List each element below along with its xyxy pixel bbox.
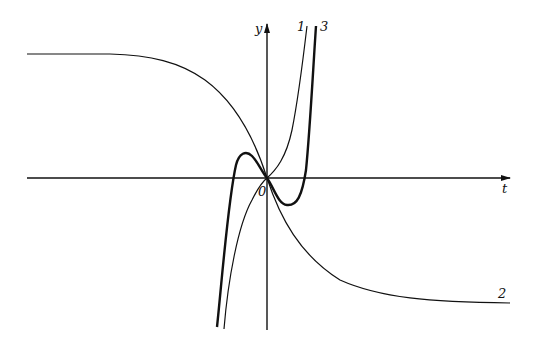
t-axis-label: t — [502, 181, 508, 196]
plot-canvas: y t 0 1 3 2 — [0, 0, 536, 346]
y-axis-label: y — [254, 21, 263, 36]
curve-3-label: 3 — [320, 19, 328, 34]
curve-1-label: 1 — [297, 19, 305, 34]
origin-label: 0 — [258, 184, 266, 199]
curve-2-label: 2 — [497, 286, 506, 301]
